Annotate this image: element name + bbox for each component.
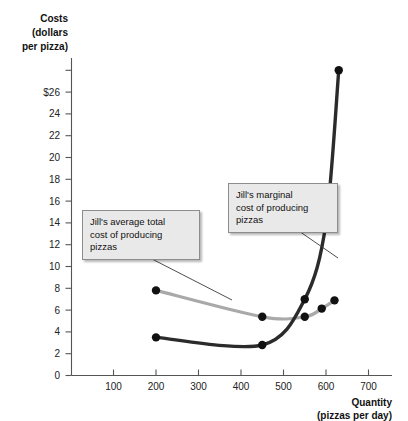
mc-annotation-line3: pizzas xyxy=(236,214,331,227)
y-tick-label: 12 xyxy=(49,239,61,250)
x-tick-label: 500 xyxy=(275,381,292,392)
mc-annotation-callout: Jill's marginal cost of producing pizzas xyxy=(228,183,338,233)
mc-annotation-line1: Jill's marginal xyxy=(236,189,331,202)
y-tick-label: 24 xyxy=(49,108,61,119)
x-tick-label: 200 xyxy=(148,381,165,392)
y-tick-label: $26 xyxy=(43,87,60,98)
atc-annotation-callout: Jill's average total cost of producing p… xyxy=(82,210,200,260)
y-axis-ticks xyxy=(66,70,72,375)
atc-data-point xyxy=(152,286,160,294)
y-tick-label: 18 xyxy=(49,174,61,185)
y-tick-label: 8 xyxy=(54,283,60,294)
y-tick-label: 16 xyxy=(49,196,61,207)
x-tick-label: 300 xyxy=(190,381,207,392)
atc-data-point xyxy=(318,304,326,312)
atc-data-point xyxy=(330,296,338,304)
atc-annotation-line1: Jill's average total xyxy=(90,216,193,229)
mc-annotation-line2: cost of producing xyxy=(236,202,331,215)
y-tick-label: 14 xyxy=(49,217,61,228)
y-tick-label: 0 xyxy=(54,370,60,381)
y-tick-label: 4 xyxy=(54,326,60,337)
y-axis-title-line3: per pizza) xyxy=(22,41,68,52)
atc-annotation-line2: cost of producing xyxy=(90,229,193,242)
y-axis-title-line2: (dollars xyxy=(32,27,69,38)
mc-callout-leader-line xyxy=(296,229,338,258)
y-axis-tick-labels: 0 2 4 6 8 10 12 14 16 18 20 22 24 $26 xyxy=(43,87,60,381)
x-tick-label: 700 xyxy=(360,381,377,392)
atc-data-point xyxy=(301,313,309,321)
mc-data-point xyxy=(335,66,343,74)
x-axis-subtitle: (pizzas per day) xyxy=(317,410,392,421)
atc-annotation-line3: pizzas xyxy=(90,241,193,254)
y-tick-label: 20 xyxy=(49,152,61,163)
y-tick-label: 2 xyxy=(54,348,60,359)
x-tick-label: 100 xyxy=(105,381,122,392)
y-tick-label: 22 xyxy=(49,130,61,141)
y-tick-label: 10 xyxy=(49,261,61,272)
x-axis-tick-labels: 100 200 300 400 500 600 700 xyxy=(105,381,377,392)
mc-data-point xyxy=(258,341,266,349)
mc-data-point xyxy=(152,333,160,341)
y-tick-label: 6 xyxy=(54,305,60,316)
x-tick-label: 400 xyxy=(233,381,250,392)
atc-data-point xyxy=(258,313,266,321)
x-axis-title: Quantity xyxy=(351,397,392,408)
x-axis-ticks xyxy=(114,370,369,376)
cost-curves-chart: Costs (dollars per pizza) 0 2 4 xyxy=(0,0,408,421)
chart-plot-area: Costs (dollars per pizza) 0 2 4 xyxy=(0,0,408,421)
x-tick-label: 600 xyxy=(318,381,335,392)
mc-data-point xyxy=(301,295,309,303)
y-axis-title-line1: Costs xyxy=(40,13,68,24)
